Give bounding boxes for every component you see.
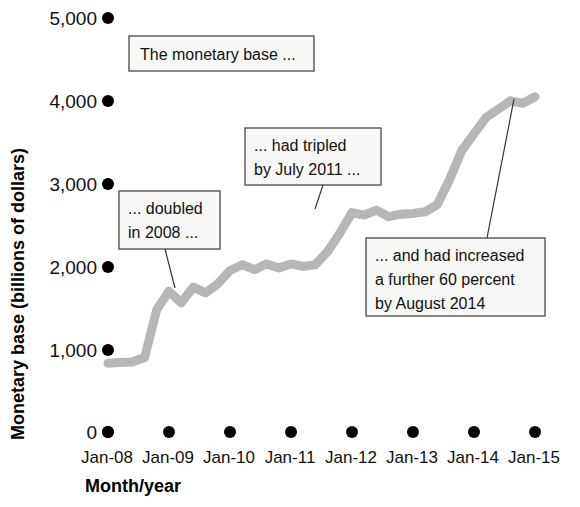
y-tick-label-4000: 4,000: [49, 91, 97, 112]
callout-tripled-2011: ... had tripled by July 2011 ...: [245, 128, 381, 209]
x-tick-label-jan-10: Jan-10: [203, 448, 255, 467]
callout-doubled-2008-line2: in 2008 ...: [128, 224, 198, 241]
x-tick-label-jan-13: Jan-13: [386, 448, 438, 467]
callout-increased-2014-line1: ... and had increased: [375, 247, 524, 264]
y-tick-dot-3000: [102, 178, 114, 190]
x-axis-ticks: [102, 426, 541, 438]
callout-doubled-2008-line1: ... doubled: [128, 200, 203, 217]
y-axis-tick-labels: 5,000 4,000 3,000 2,000 1,000 0: [49, 8, 97, 443]
y-axis-ticks: [102, 12, 114, 438]
y-tick-label-1000: 1,000: [49, 340, 97, 361]
monetary-base-chart: 5,000 4,000 3,000 2,000 1,000 0 Monetary…: [0, 0, 580, 507]
callout-monetary-base-text: The monetary base ...: [140, 46, 296, 63]
callout-increased-2014-line2: a further 60 percent: [375, 271, 515, 288]
callout-doubled-2008-leader: [165, 249, 175, 288]
x-tick-label-jan-08: Jan-08: [81, 448, 133, 467]
y-tick-dot-4000: [102, 95, 114, 107]
x-tick-dot-jan-08: [102, 426, 114, 438]
callout-increased-2014-line3: by August 2014: [375, 295, 485, 312]
callout-doubled-2008: ... doubled in 2008 ...: [119, 191, 220, 288]
x-axis-title: Month/year: [85, 476, 181, 496]
x-tick-label-jan-09: Jan-09: [142, 448, 194, 467]
y-tick-label-5000: 5,000: [49, 8, 97, 29]
callout-tripled-2011-leader: [315, 185, 323, 209]
x-tick-dot-jan-13: [407, 426, 419, 438]
x-tick-dot-jan-09: [163, 426, 175, 438]
y-tick-label-0: 0: [86, 422, 97, 443]
y-axis-title: Monetary base (billions of dollars): [8, 148, 28, 440]
x-tick-label-jan-15: Jan-15: [508, 448, 560, 467]
callout-tripled-2011-line2: by July 2011 ...: [254, 161, 360, 178]
x-tick-label-jan-12: Jan-12: [325, 448, 377, 467]
callout-tripled-2011-line1: ... had tripled: [254, 137, 347, 154]
x-tick-dot-jan-15: [529, 426, 541, 438]
y-tick-dot-1000: [102, 344, 114, 356]
x-tick-dot-jan-12: [346, 426, 358, 438]
x-tick-dot-jan-10: [224, 426, 236, 438]
x-tick-dot-jan-11: [285, 426, 297, 438]
x-tick-label-jan-14: Jan-14: [447, 448, 499, 467]
chart-canvas: 5,000 4,000 3,000 2,000 1,000 0 Monetary…: [0, 0, 580, 507]
x-axis-tick-labels: Jan-08 Jan-09 Jan-10 Jan-11 Jan-12 Jan-1…: [81, 448, 560, 467]
y-tick-label-3000: 3,000: [49, 174, 97, 195]
callout-monetary-base: The monetary base ...: [129, 36, 314, 71]
y-tick-dot-5000: [102, 12, 114, 24]
callout-increased-2014: ... and had increased a further 60 perce…: [366, 99, 545, 316]
callout-increased-2014-leader: [487, 99, 514, 238]
y-tick-dot-2000: [102, 261, 114, 273]
y-tick-label-2000: 2,000: [49, 257, 97, 278]
x-tick-dot-jan-14: [468, 426, 480, 438]
x-tick-label-jan-11: Jan-11: [265, 448, 316, 467]
